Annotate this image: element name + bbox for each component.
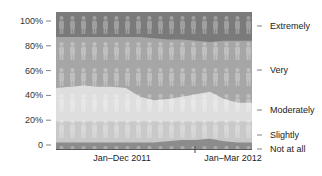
legend-label-extremely: Extremely (270, 21, 311, 31)
person-icon-pictograph (56, 12, 252, 149)
x-label-2012: Jan–Mar 2012 (204, 153, 262, 163)
y-axis: 100%80%60%40%20%0 (20, 16, 51, 150)
legend-label-moderately: Moderately (270, 105, 315, 115)
plot-area (56, 12, 252, 150)
y-tick-label: 20% (25, 115, 43, 125)
y-tick-label: 40% (25, 90, 43, 100)
legend: Not at allSlightlyModeratelyVeryExtremel… (257, 21, 315, 154)
x-label-2011: Jan–Dec 2011 (93, 153, 150, 163)
y-tick-label: 100% (20, 16, 43, 26)
legend-label-not-at-all: Not at all (270, 144, 306, 154)
y-tick-label: 80% (25, 41, 43, 51)
y-tick-label: 60% (25, 66, 43, 76)
y-tick-label: 0 (38, 140, 43, 150)
legend-label-slightly: Slightly (270, 130, 300, 140)
stacked-area-chart: 100%80%60%40%20%0 Not at allSlightlyMode… (0, 0, 322, 176)
legend-label-very: Very (270, 65, 289, 75)
